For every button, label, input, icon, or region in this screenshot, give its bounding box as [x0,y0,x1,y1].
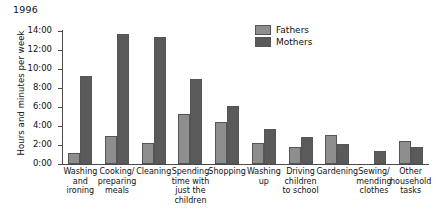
bar-group [209,31,246,164]
bar-mothers [190,79,202,164]
legend-label: Mothers [276,37,312,47]
bar-group [319,31,356,164]
bar-mothers [337,144,349,164]
legend-item: Fathers [255,25,312,35]
bar-fathers [252,143,264,164]
y-axis-title: Hours and minutes per week [16,18,26,168]
bar-mothers [227,106,239,164]
x-axis-label: Otherhouseholdtasks [385,167,436,196]
legend-item: Mothers [255,37,312,47]
bar-group [172,31,209,164]
bar-group [392,31,429,164]
legend-swatch [255,25,271,35]
bar-fathers [142,143,154,164]
legend-swatch [255,37,271,47]
bar-fathers [399,141,411,164]
y-tick-label: 2:00 [33,139,52,149]
bar-mothers [117,34,129,164]
chart-title: 1996 [13,4,38,15]
legend-label: Fathers [276,25,309,35]
x-axis-labels: WashingandironingCooking/preparingmealsC… [62,167,429,224]
bar-group [135,31,172,164]
bar-group [282,31,319,164]
plot-area [62,31,429,164]
bar-mothers [154,37,166,164]
bar-group [99,31,136,164]
bar-group [356,31,393,164]
x-axis-line [62,164,429,165]
bar-mothers [301,137,313,164]
y-tick-label: 4:00 [33,120,52,130]
bar-mothers [411,147,423,164]
y-tick-mark [58,164,62,165]
y-tick-label: 14:00 [28,25,53,35]
bar-fathers [105,136,117,165]
bar-group [246,31,283,164]
y-tick-label: 12:00 [28,44,53,54]
y-tick-label: 8:00 [33,82,52,92]
bar-fathers [325,135,337,164]
bar-group [62,31,99,164]
y-tick-label: 0:00 [33,158,52,168]
y-tick-label: 10:00 [28,63,53,73]
chart-legend: FathersMothers [255,25,312,47]
y-tick-label: 6:00 [33,101,52,111]
bar-fathers [289,147,301,164]
bar-mothers [374,151,386,164]
bar-fathers [215,122,227,164]
bar-mothers [264,129,276,164]
bar-mothers [80,76,92,164]
bar-fathers [178,114,190,164]
bar-fathers [68,153,80,164]
